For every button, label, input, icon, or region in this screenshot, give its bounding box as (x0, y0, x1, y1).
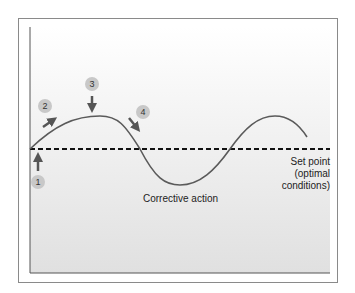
step-badge-4: 4 (136, 105, 150, 119)
set-point-label-line3: conditions) (275, 180, 330, 192)
feedback-diagram (0, 0, 355, 293)
set-point-label-line1: Set point (275, 156, 330, 168)
step-badge-1: 1 (31, 175, 45, 189)
step-badge-3: 3 (85, 77, 99, 91)
corrective-action-label: Corrective action (143, 193, 218, 205)
set-point-label: Set point (optimal conditions) (275, 156, 330, 192)
step-badge-2: 2 (38, 99, 52, 113)
set-point-label-line2: (optimal (275, 168, 330, 180)
